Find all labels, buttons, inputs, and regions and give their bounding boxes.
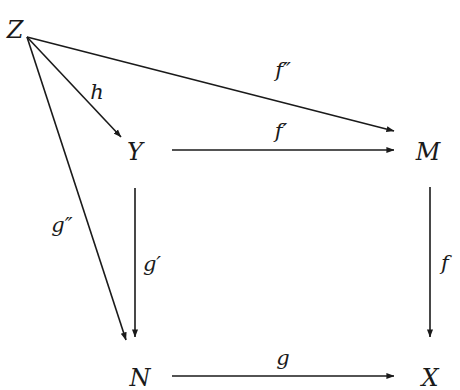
arrow-h <box>27 37 121 137</box>
node-n: N <box>130 366 151 390</box>
node-m: M <box>416 140 441 164</box>
edge-label-f-double-prime: f″ <box>275 60 291 81</box>
arrow-f2 <box>27 37 394 131</box>
node-y: Y <box>127 140 143 164</box>
edge-label-g: g <box>276 348 289 369</box>
edge-label-g-prime: g′ <box>143 254 161 275</box>
node-z: Z <box>7 18 24 42</box>
edge-label-f: f <box>441 253 449 274</box>
edge-label-g-double-prime: g″ <box>51 215 72 236</box>
node-x: X <box>421 366 438 390</box>
arrow-g2 <box>27 37 126 340</box>
arrows-layer <box>0 0 460 390</box>
edge-label-h: h <box>90 82 104 103</box>
edge-label-f-prime: f′ <box>275 121 288 142</box>
commutative-diagram: Z Y M N X h f″ f′ g″ g′ f g <box>0 0 460 390</box>
